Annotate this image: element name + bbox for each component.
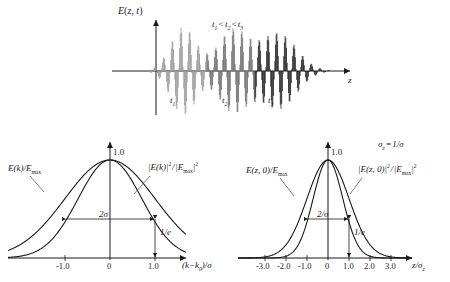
right-panel-svg xyxy=(232,120,450,282)
right-panel-spatial: σz = 1/σ E(z, 0)/Emax |E(z, 0)|2 / |Emax… xyxy=(232,120,450,282)
right-xtick-label--3.0: -3.0 xyxy=(256,262,269,271)
right-xtick-label-1.0: 1.0 xyxy=(343,262,354,271)
left-xtick-label-1.0: 1.0 xyxy=(148,262,159,271)
right-panel-x-axis-label: z/σz xyxy=(412,261,425,272)
left-xtick-label-0: 0 xyxy=(107,262,111,271)
right-leader-intensity xyxy=(350,178,362,194)
left-xtick-label--1.0: -1.0 xyxy=(56,262,69,271)
right-leader-amplitude xyxy=(280,178,294,196)
right-xtick-label--1.0: -1.0 xyxy=(298,262,311,271)
right-height-label: 1/e xyxy=(354,228,365,237)
left-leader-amplitude xyxy=(30,176,44,192)
right-relation-note: σz = 1/σ xyxy=(378,140,404,151)
figure-root: E(z, t) z t1 < t2 < t3 t1 t2 t3 xyxy=(0,0,450,282)
left-curve-label-intensity: |E(k)|2 / |Emax|2 xyxy=(148,162,198,174)
top-panel-y-axis-label: E(z, t) xyxy=(118,6,142,16)
left-panel-spectral: E(k)/Emax |E(k)|2 / |Emax|2 1.0 2σ 1/e -… xyxy=(0,120,232,282)
left-curve-label-amplitude: E(k)/Emax xyxy=(8,164,41,175)
right-curve-label-intensity: |E(z, 0)|2 / |Emax|2 xyxy=(358,164,417,176)
left-panel-x-axis-label: (k−k0)/σ xyxy=(182,261,212,272)
packet-label-t2: t2 xyxy=(222,96,227,107)
right-xtick-label-0: 0 xyxy=(325,262,329,271)
left-width-label: 2σ xyxy=(99,210,108,219)
left-leader-intensity xyxy=(134,176,150,194)
packet-label-t3: t3 xyxy=(268,96,273,107)
top-panel-wave-packet: E(z, t) z t1 < t2 < t3 t1 t2 t3 xyxy=(0,0,450,120)
right-xtick-label-3.0: 3.0 xyxy=(385,262,396,271)
left-panel-svg xyxy=(0,120,232,282)
packet-label-t1: t1 xyxy=(170,96,175,107)
left-peak-label: 1.0 xyxy=(113,148,124,157)
right-xtick-label--2.0: -2.0 xyxy=(277,262,290,271)
top-panel-x-axis-label: z xyxy=(348,76,352,85)
right-width-label: 2/σ xyxy=(317,210,328,219)
right-xtick-label-2.0: 2.0 xyxy=(364,262,375,271)
right-peak-label: 1.0 xyxy=(331,148,342,157)
time-ordering-note: t1 < t2 < t3 xyxy=(212,20,243,31)
left-height-label: 1/e xyxy=(160,228,171,237)
right-curve-label-amplitude: E(z, 0)/Emax xyxy=(246,166,288,177)
